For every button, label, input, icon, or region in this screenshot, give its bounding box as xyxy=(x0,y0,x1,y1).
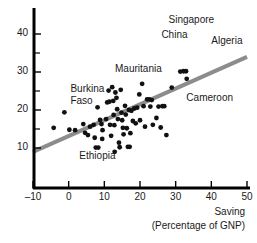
x-tick-label: 30 xyxy=(162,191,190,202)
data-point xyxy=(95,105,100,110)
data-point xyxy=(67,127,72,132)
country-label: Mauritania xyxy=(115,63,162,74)
x-axis-title-line1: Saving xyxy=(150,206,245,217)
data-point xyxy=(164,133,169,138)
data-point xyxy=(104,117,109,122)
data-point xyxy=(114,95,119,100)
data-point xyxy=(150,122,155,127)
data-point xyxy=(184,76,189,81)
data-point xyxy=(135,105,140,110)
country-label: Burkina xyxy=(70,83,104,94)
x-tick-label: 20 xyxy=(126,191,154,202)
country-label: Faso xyxy=(70,95,92,106)
data-point xyxy=(62,110,67,115)
data-point xyxy=(158,125,163,130)
data-point xyxy=(149,98,154,103)
data-point xyxy=(91,122,96,127)
y-tick-label: 10 xyxy=(6,141,28,152)
data-point xyxy=(99,122,104,127)
data-point xyxy=(100,128,105,133)
data-point xyxy=(128,131,133,136)
data-point xyxy=(110,85,115,90)
data-point xyxy=(117,140,122,145)
data-point xyxy=(115,117,120,122)
data-point xyxy=(73,128,78,133)
data-point xyxy=(100,136,105,141)
country-label: Cameroon xyxy=(186,92,233,103)
data-point xyxy=(98,117,103,122)
data-point xyxy=(148,104,153,109)
data-point xyxy=(141,104,146,109)
x-tick-label: –10 xyxy=(19,191,47,202)
data-point xyxy=(111,113,116,118)
y-tick-label: 40 xyxy=(6,27,28,38)
y-tick-label: 20 xyxy=(6,103,28,114)
data-point xyxy=(117,145,122,150)
data-point xyxy=(169,85,174,90)
data-point xyxy=(112,123,117,128)
data-point xyxy=(133,121,138,126)
data-point xyxy=(118,87,123,92)
data-point xyxy=(86,133,91,138)
x-tick-label: 40 xyxy=(197,191,225,202)
data-point xyxy=(119,110,124,115)
x-tick-label: 50 xyxy=(233,191,257,202)
data-point xyxy=(123,112,128,117)
data-point xyxy=(120,118,125,123)
y-tick-label: 30 xyxy=(6,65,28,76)
data-point xyxy=(124,126,129,131)
data-point xyxy=(162,104,167,109)
data-point xyxy=(92,135,97,140)
data-point xyxy=(143,124,148,129)
data-point xyxy=(81,122,86,127)
data-point xyxy=(184,69,189,74)
data-points-group xyxy=(51,69,189,154)
data-point xyxy=(127,144,132,149)
country-label: Singapore xyxy=(169,14,215,25)
data-point xyxy=(138,118,143,123)
scatter-plot-figure: 10203040 –1001020304050 SingaporeChinaAl… xyxy=(0,0,257,243)
data-point xyxy=(109,133,114,138)
data-point xyxy=(140,81,145,86)
data-point xyxy=(113,90,118,95)
country-label: Algeria xyxy=(211,35,242,46)
country-label: Ethiopia xyxy=(79,150,115,161)
data-point xyxy=(121,132,126,137)
data-point xyxy=(123,103,128,108)
data-point xyxy=(154,116,159,121)
country-label: China xyxy=(161,29,187,40)
data-point xyxy=(51,125,56,130)
data-point xyxy=(106,88,111,93)
data-point xyxy=(115,107,120,112)
x-tick-label: 0 xyxy=(55,191,83,202)
x-tick-label: 10 xyxy=(90,191,118,202)
data-point xyxy=(108,122,113,127)
data-point xyxy=(137,92,142,97)
x-axis-title-line2: (Percentage of GNP) xyxy=(115,220,245,231)
